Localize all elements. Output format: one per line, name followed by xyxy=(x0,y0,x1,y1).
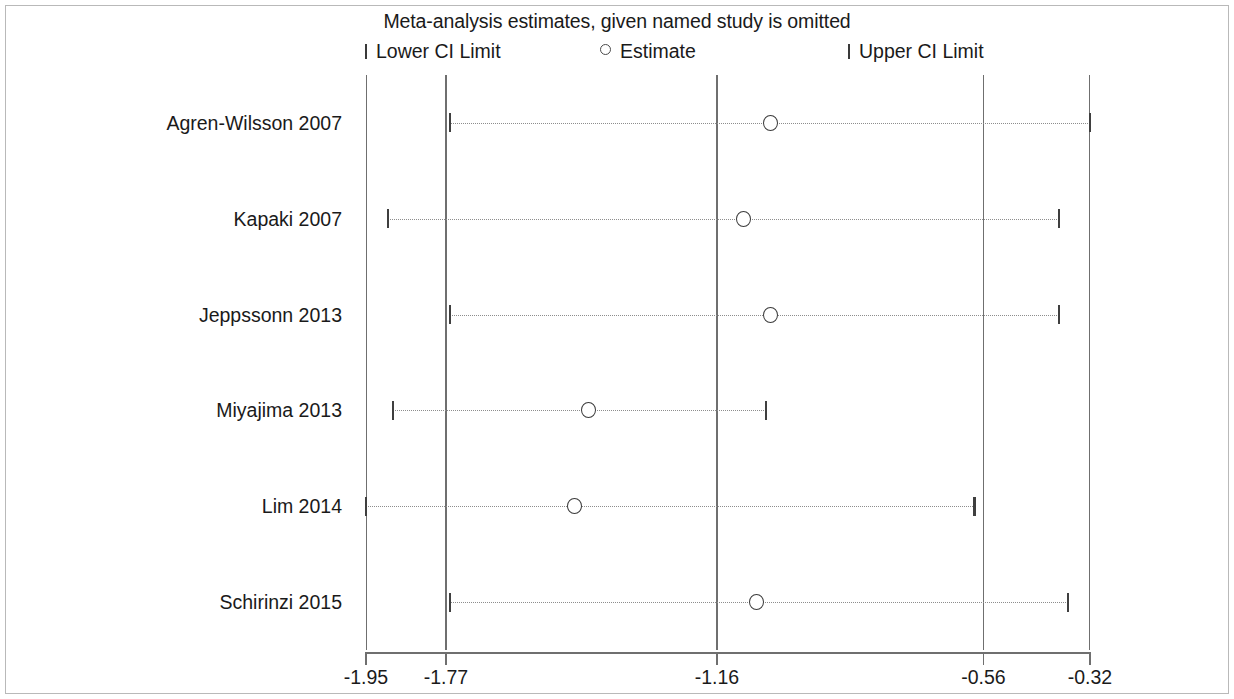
tick-marker-icon xyxy=(848,44,850,59)
legend-label-estimate: Estimate xyxy=(620,40,696,63)
estimate-marker[interactable] xyxy=(749,594,764,610)
circle-marker-icon xyxy=(600,44,611,55)
chart-legend: Lower CI Limit Estimate Upper CI Limit xyxy=(0,40,1234,66)
lower-ci-cap xyxy=(449,113,451,132)
y-axis-label-kapaki-2007: Kapaki 2007 xyxy=(234,208,342,231)
y-axis-label-miyajima-2013: Miyajima 2013 xyxy=(216,399,342,422)
x-axis-tick xyxy=(716,652,718,665)
tick-marker-icon xyxy=(365,44,367,59)
confidence-interval-line xyxy=(450,315,1059,316)
upper-ci-cap xyxy=(1058,209,1060,228)
meta-analysis-influence-plot: Meta-analysis estimates, given named stu… xyxy=(0,0,1234,699)
legend-item-estimate: Estimate xyxy=(600,40,696,63)
y-axis-label-jeppssonn-2013: Jeppssonn 2013 xyxy=(199,304,342,327)
confidence-interval-line xyxy=(366,506,975,507)
x-axis-tick xyxy=(365,652,367,665)
estimate-marker[interactable] xyxy=(581,402,596,418)
x-axis-tick-label: -1.95 xyxy=(344,666,388,689)
lower-ci-cap xyxy=(449,305,451,324)
plot-area xyxy=(366,75,1090,650)
lower-ci-cap xyxy=(392,401,394,420)
x-axis-tick xyxy=(1089,652,1091,665)
legend-label-upper-ci-limit: Upper CI Limit xyxy=(859,40,984,63)
estimate-marker[interactable] xyxy=(567,498,582,514)
x-axis-tick-label: -0.32 xyxy=(1068,666,1112,689)
plot-region-right-edge xyxy=(1089,75,1090,650)
estimate-marker[interactable] xyxy=(763,307,778,323)
y-axis-label-agren-wilsson-2007: Agren-Wilsson 2007 xyxy=(166,112,342,135)
reference-line xyxy=(983,75,984,650)
upper-ci-cap xyxy=(1067,593,1069,612)
x-axis-tick xyxy=(983,652,985,665)
upper-ci-cap xyxy=(765,401,767,420)
reference-line xyxy=(445,75,446,650)
upper-ci-cap xyxy=(1058,305,1060,324)
x-axis-tick xyxy=(445,652,447,665)
upper-ci-cap xyxy=(1089,113,1091,132)
y-axis-category-labels: Agren-Wilsson 2007Kapaki 2007Jeppssonn 2… xyxy=(0,75,350,650)
confidence-interval-line xyxy=(388,219,1059,220)
estimate-marker[interactable] xyxy=(736,211,751,227)
confidence-interval-line xyxy=(393,410,766,411)
legend-label-lower-ci-limit: Lower CI Limit xyxy=(376,40,501,63)
upper-ci-cap xyxy=(973,497,975,516)
reference-line xyxy=(716,75,717,650)
y-axis-label-lim-2014: Lim 2014 xyxy=(262,495,342,518)
x-axis-line xyxy=(366,652,1090,654)
legend-item-upper-ci-limit: Upper CI Limit xyxy=(848,40,984,63)
lower-ci-cap xyxy=(365,497,367,516)
chart-title: Meta-analysis estimates, given named stu… xyxy=(0,10,1234,33)
legend-item-lower-ci-limit: Lower CI Limit xyxy=(365,40,501,63)
x-axis-tick-label: -1.77 xyxy=(424,666,468,689)
lower-ci-cap xyxy=(449,593,451,612)
x-axis-tick-label: -0.56 xyxy=(961,666,1005,689)
plot-region-left-edge xyxy=(366,75,367,650)
y-axis-label-schirinzi-2015: Schirinzi 2015 xyxy=(220,591,342,614)
estimate-marker[interactable] xyxy=(763,115,778,131)
x-axis-tick-label: -1.16 xyxy=(695,666,739,689)
lower-ci-cap xyxy=(387,209,389,228)
